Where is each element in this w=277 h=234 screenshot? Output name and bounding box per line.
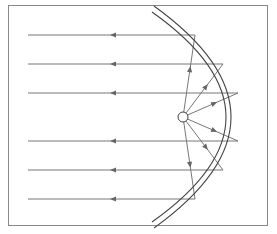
arrow-icon (110, 196, 116, 201)
arrow-icon (202, 144, 208, 150)
arrow-icon (187, 66, 192, 72)
mirror-outer-surface (154, 6, 231, 228)
arrow-icon (110, 61, 116, 66)
diagram-frame (9, 6, 268, 226)
ray-group (28, 32, 238, 201)
arrow-icon (202, 84, 208, 90)
arrow-icon (110, 32, 116, 37)
mirror-inner-surface (152, 12, 226, 222)
arrow-icon (110, 90, 116, 95)
arrow-icon (110, 167, 116, 172)
reflector-diagram (0, 0, 277, 234)
light-source-icon (178, 112, 188, 122)
diagram-canvas (0, 0, 277, 234)
arrow-icon (110, 138, 116, 143)
arrow-icon (187, 162, 192, 168)
